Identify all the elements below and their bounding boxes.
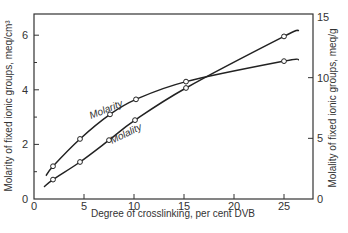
- axis-ticks: 05101520250246051015: [22, 11, 329, 212]
- molality-data-point: [78, 160, 83, 165]
- x-tick-label: 25: [278, 200, 290, 212]
- molarity-data-point: [184, 79, 189, 84]
- data-series: [44, 30, 299, 187]
- plot-frame: [34, 14, 313, 199]
- dual-axis-line-chart: 05101520250246051015 Degree of crosslink…: [0, 0, 348, 233]
- y-left-tick-label: 2: [22, 138, 28, 150]
- x-axis-title: Degree of crosslinking, per cent DVB: [91, 208, 255, 219]
- y-right-tick-label: 15: [317, 11, 329, 23]
- plot-border: [34, 14, 313, 199]
- y-right-tick-label: 0: [317, 193, 323, 205]
- molarity-data-point: [134, 97, 139, 102]
- y-left-axis-title: Molarity of fixed ionic groups, meq/cm³: [3, 20, 14, 192]
- molarity-data-point: [51, 164, 56, 169]
- y-left-tick-label: 6: [22, 29, 28, 41]
- molality-data-point: [184, 86, 189, 91]
- x-tick-label: 0: [31, 200, 37, 212]
- molality-data-point: [51, 177, 56, 182]
- y-right-tick-label: 5: [317, 132, 323, 144]
- molality-data-point: [282, 34, 287, 39]
- molality-curve-label: Molality: [108, 121, 144, 146]
- x-tick-label: 5: [81, 200, 87, 212]
- y-left-tick-label: 4: [22, 84, 28, 96]
- molarity-data-point: [78, 137, 83, 142]
- y-right-axis-title: Molality of fixed ionic groups, meq/g: [327, 29, 338, 188]
- molarity-data-point: [282, 59, 287, 64]
- y-left-tick-label: 0: [22, 193, 28, 205]
